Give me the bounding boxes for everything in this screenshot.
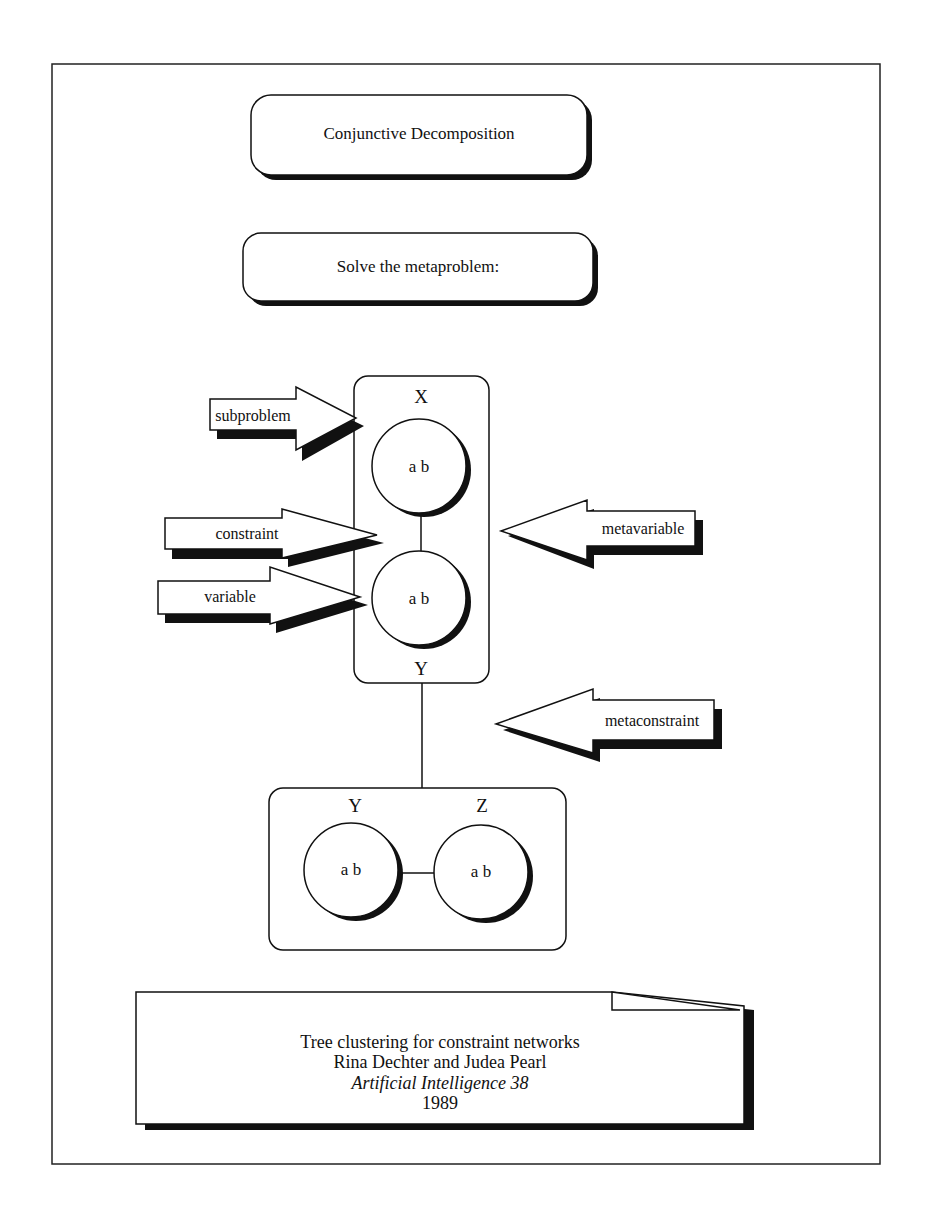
var-label-x: X [414,386,428,407]
var-label-z: Z [476,795,488,816]
subtitle-box: Solve the metaproblem: [243,233,598,306]
callout-label: subproblem [215,407,291,425]
subtitle-text: Solve the metaproblem: [337,257,499,276]
var-label-y-upper: Y [414,658,428,679]
citation-note: Tree clustering for constraint networks … [136,992,754,1130]
metavariable-lower: Y Z a b a b [269,788,566,950]
citation-authors: Rina Dechter and Judea Pearl [334,1052,547,1072]
metavariable-upper: X Y a b a b [354,376,489,683]
callout-label: constraint [215,525,279,542]
var-label-y-lower: Y [348,795,362,816]
slide-canvas: Conjunctive Decomposition Solve the meta… [0,0,929,1216]
callout-label: variable [204,588,256,605]
citation-title: Tree clustering for constraint networks [300,1032,579,1052]
title-text: Conjunctive Decomposition [323,124,515,143]
callout-label: metavariable [602,520,685,537]
node-values: a b [409,457,429,476]
node-values: a b [409,589,429,608]
citation-year: 1989 [422,1093,458,1113]
node-values: a b [341,860,361,879]
title-box: Conjunctive Decomposition [251,95,592,180]
citation-journal: Artificial Intelligence 38 [351,1073,529,1093]
node-values: a b [471,862,491,881]
callout-label: metaconstraint [605,712,700,729]
